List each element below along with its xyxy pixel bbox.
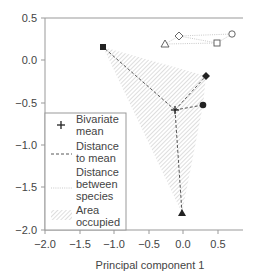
- x-tick-label: −0.5: [138, 238, 160, 250]
- legend-label: mean: [76, 125, 104, 137]
- legend-label: between: [76, 178, 118, 190]
- y-tick-label: −1.5: [15, 181, 37, 193]
- legend-label: occupied: [76, 216, 120, 228]
- diamond-open-marker: [175, 32, 183, 40]
- legend-label: to mean: [76, 152, 116, 164]
- legend-hatch-icon: [51, 210, 72, 220]
- y-axis: [41, 18, 45, 230]
- y-tick-label: −1.0: [15, 139, 37, 151]
- legend-label: Distance: [76, 140, 119, 152]
- y-tick-label: 0.5: [22, 12, 37, 24]
- circle-open-marker: [229, 31, 235, 37]
- x-tick-label: −1.5: [69, 238, 91, 250]
- x-tick-label: 0.0: [175, 238, 190, 250]
- legend-label: Distance: [76, 166, 119, 178]
- legend-label: Bivariate: [76, 113, 119, 125]
- circle-filled-marker: [200, 102, 207, 109]
- legend: Bivariate mean Distance to mean Distance…: [45, 113, 126, 230]
- x-axis-label: Principal component 1: [96, 259, 205, 271]
- legend-label: Area: [76, 204, 100, 216]
- square-filled-marker: [100, 44, 106, 50]
- y-tick-label: 0.0: [22, 54, 37, 66]
- x-tick-label: −2.0: [34, 238, 56, 250]
- y-tick-label: −2.0: [15, 224, 37, 236]
- x-tick-label: −1.0: [103, 238, 125, 250]
- triangle-filled-marker: [178, 209, 186, 216]
- square-open-marker: [214, 40, 220, 46]
- triangle-open-marker: [161, 40, 169, 47]
- legend-label: species: [76, 190, 114, 202]
- x-tick-label: 0.5: [210, 238, 225, 250]
- x-axis: [45, 230, 218, 234]
- scatter-chart: 0.5 0.0 −0.5 −1.0 −1.5 −2.0 −2.0 −1.5 −1…: [0, 0, 255, 280]
- y-tick-label: −0.5: [15, 97, 37, 109]
